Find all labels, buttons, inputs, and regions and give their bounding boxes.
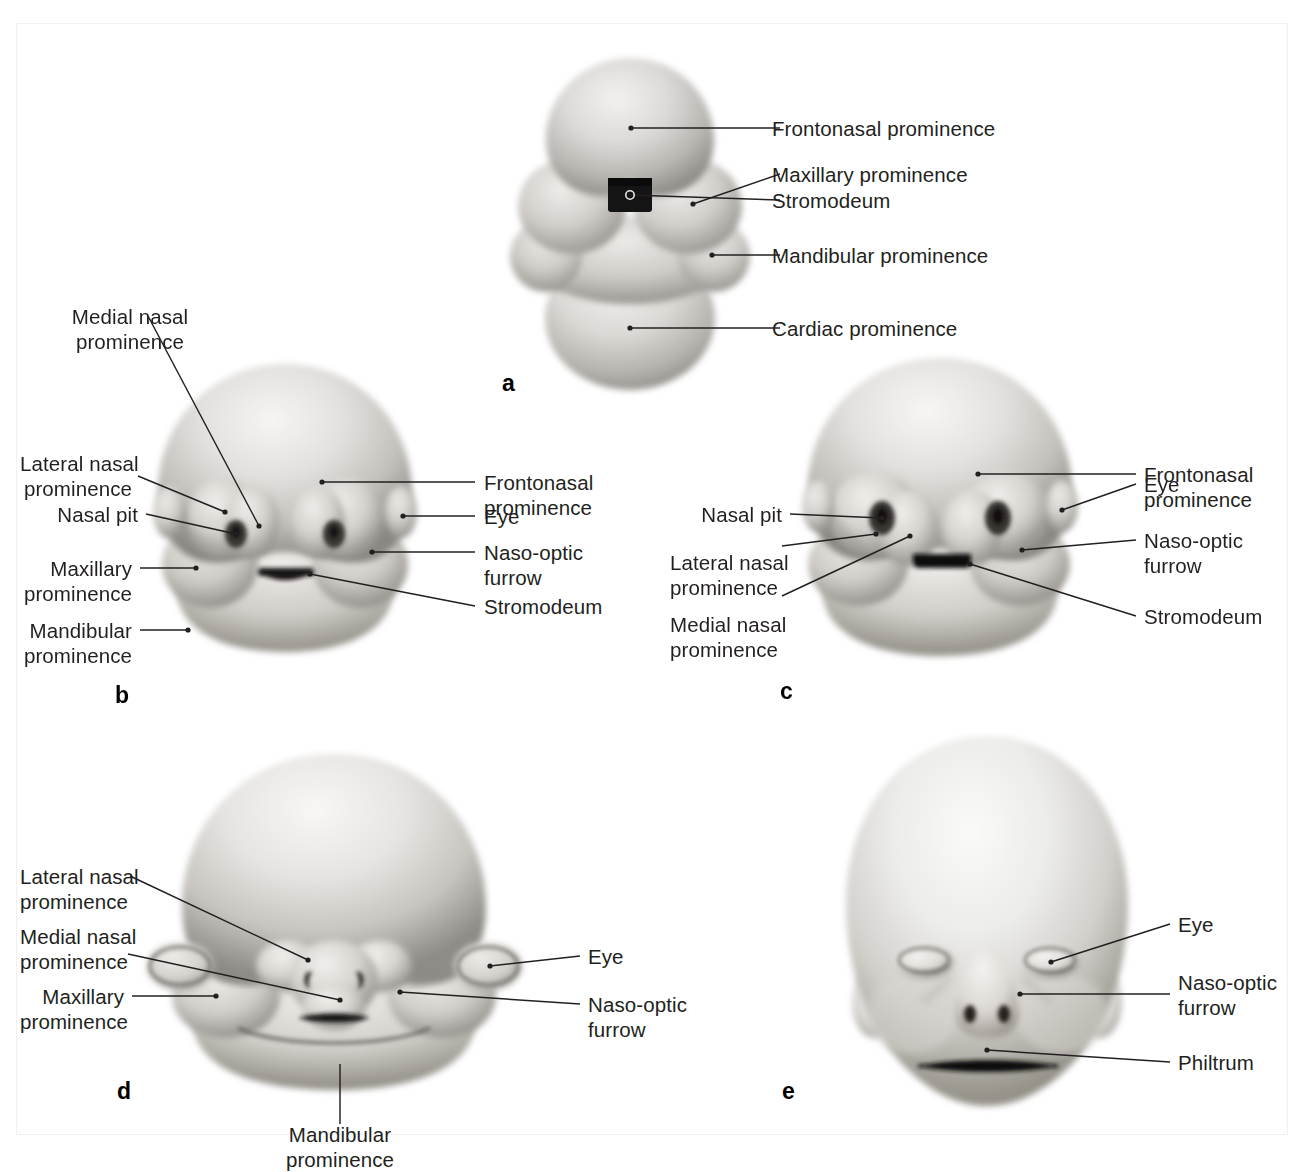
- panel-letter-b: b: [115, 682, 129, 709]
- label-b-medial-nasal-prominence: Medial nasal prominence: [72, 304, 188, 354]
- label-e-philtrum: Philtrum: [1178, 1050, 1254, 1075]
- label-b-nasal-pit: Nasal pit: [20, 502, 138, 527]
- label-d-lateral-nasal-prominence: Lateral nasal prominence: [20, 864, 124, 914]
- label-c-nasal-pit: Nasal pit: [670, 502, 782, 527]
- label-b-mandibular-prominence: Mandibular prominence: [20, 618, 132, 668]
- label-e-naso-optic-furrow: Naso-optic furrow: [1178, 970, 1277, 1020]
- panel-c: Nasal pit Lateral nasal prominence Media…: [670, 296, 1310, 726]
- panel-d: Lateral nasal prominence Medial nasal pr…: [20, 718, 680, 1138]
- label-d-maxillary-prominence: Maxillary prominence: [20, 984, 124, 1034]
- label-a-frontonasal-prominence: Frontonasal prominence: [772, 116, 995, 141]
- panel-b: Medial nasal prominence Lateral nasal pr…: [20, 296, 660, 726]
- label-d-medial-nasal-prominence: Medial nasal prominence: [20, 924, 124, 974]
- label-a-maxillary-prominence: Maxillary prominence: [772, 162, 968, 187]
- label-c-medial-nasal-prominence: Medial nasal prominence: [670, 612, 776, 662]
- panel-letter-d-visible: d: [117, 1078, 131, 1105]
- label-d-eye: Eye: [588, 944, 624, 969]
- label-c-stromodeum: Stromodeum: [1144, 604, 1262, 629]
- label-c-eye: Eye: [1144, 472, 1180, 497]
- panel-letter-c: c: [780, 678, 793, 705]
- label-c-lateral-nasal-prominence: Lateral nasal prominence: [670, 550, 776, 600]
- panel-e: Eye Naso-optic furrow Philtrum e: [770, 714, 1310, 1134]
- label-a-stromodeum: Stromodeum: [772, 188, 890, 213]
- label-a-mandibular-prominence: Mandibular prominence: [772, 243, 988, 268]
- label-b-maxillary-prominence: Maxillary prominence: [20, 556, 132, 606]
- label-c-naso-optic-furrow: Naso-optic furrow: [1144, 528, 1243, 578]
- label-d-mandibular-prominence: Mandibular prominence: [286, 1122, 394, 1172]
- label-b-stromodeum: Stromodeum: [484, 594, 602, 619]
- label-b-lateral-nasal-prominence: Lateral nasal prominence: [20, 451, 132, 501]
- label-b-naso-optic-furrow: Naso-optic furrow: [484, 540, 583, 590]
- panel-letter-e: e: [782, 1078, 795, 1105]
- label-e-eye: Eye: [1178, 912, 1214, 937]
- label-b-eye: Eye: [484, 504, 520, 529]
- label-d-naso-optic-furrow: Naso-optic furrow: [588, 992, 687, 1042]
